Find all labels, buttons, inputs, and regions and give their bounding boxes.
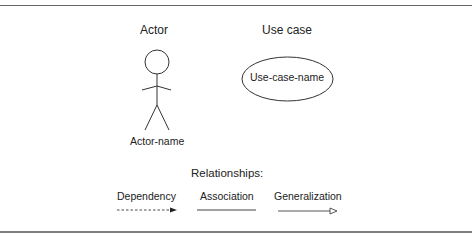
dependency-label: Dependency <box>117 191 176 202</box>
actor-right-arm <box>157 86 171 90</box>
dependency-arrow-icon <box>117 208 177 213</box>
actor-right-leg <box>157 105 169 130</box>
generalization-arrow-icon <box>278 208 337 214</box>
use-case-heading: Use case <box>262 24 312 36</box>
actor-left-leg <box>145 105 157 130</box>
actor-head <box>145 50 169 74</box>
actor-figure-icon <box>142 50 171 130</box>
relationships-heading: Relationships: <box>191 168 263 180</box>
association-label: Association <box>200 191 254 202</box>
actor-name-label: Actor-name <box>130 136 184 147</box>
use-case-name-label: Use-case-name <box>250 72 324 83</box>
generalization-label: Generalization <box>274 191 342 202</box>
actor-left-arm <box>142 86 157 90</box>
actor-heading: Actor <box>140 24 168 36</box>
diagram-canvas <box>0 0 472 243</box>
